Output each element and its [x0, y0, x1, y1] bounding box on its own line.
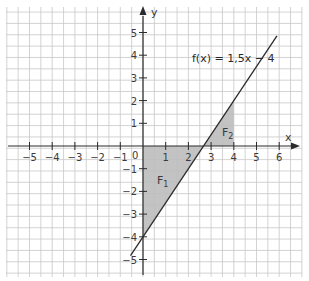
x-tick-label: 1: [163, 152, 169, 163]
y-tick-label: 3: [131, 73, 137, 84]
y-tick-label: 1: [131, 118, 137, 129]
x-tick-label: −5: [22, 152, 37, 163]
x-tick-label: 6: [276, 152, 282, 163]
y-tick-label: −3: [122, 209, 137, 220]
y-tick-label: 5: [131, 28, 137, 39]
y-tick-label: 2: [131, 96, 137, 107]
origin-label: 0: [132, 150, 138, 161]
grid: [6, 7, 302, 277]
y-tick-label: −2: [122, 186, 137, 197]
x-tick-label: 4: [231, 152, 237, 163]
x-tick-label: −1: [113, 152, 128, 163]
x-tick-label: −4: [45, 152, 60, 163]
function-label: f(x) = 1,5x − 4: [192, 52, 274, 65]
x-axis-label: x: [285, 131, 292, 144]
x-tick-label: 3: [208, 152, 214, 163]
y-axis-arrow-icon: [140, 6, 147, 15]
y-axis-label: y: [151, 6, 158, 19]
x-tick-label: −3: [68, 152, 83, 163]
x-tick-label: 2: [185, 152, 191, 163]
x-tick-label: −2: [90, 152, 105, 163]
y-tick-label: −4: [122, 232, 137, 243]
coordinate-plot: −5−4−3−2−112345654321−1−2−3−4−5 y x 0 f(…: [0, 0, 309, 281]
y-tick-label: −1: [122, 164, 137, 175]
area-label-f2-sub: 2: [228, 132, 233, 141]
area-label-f1-sub: 1: [163, 180, 168, 189]
x-tick-label: 5: [253, 152, 259, 163]
y-tick-label: −5: [122, 255, 137, 266]
y-tick-label: 4: [131, 50, 137, 61]
